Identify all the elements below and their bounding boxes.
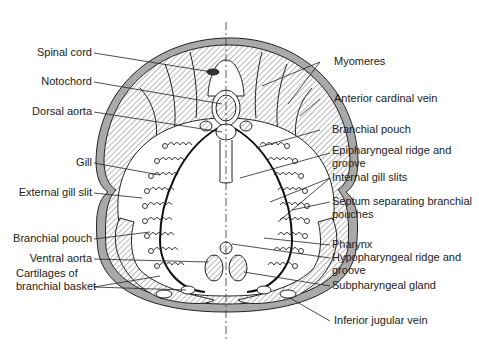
label-inferior-jugular-vein: Inferior jugular vein [334, 314, 428, 327]
label-dorsal-aorta: Dorsal aorta [0, 105, 92, 118]
label-myomeres: Myomeres [334, 55, 385, 68]
label-subpharyngeal-gland: Subpharyngeal gland [332, 279, 436, 292]
label-gill: Gill [0, 156, 92, 169]
label-epipharyngeal-line2: groove [332, 157, 366, 170]
label-external-gill-slit: External gill slit [0, 186, 92, 199]
label-spinal-cord: Spinal cord [0, 46, 92, 59]
label-septum-line2: pouches [332, 208, 374, 221]
label-hypopharyngeal-line2: groove [332, 264, 366, 277]
label-notochord: Notochord [0, 75, 92, 88]
label-cartilages-line1: Cartilages of [16, 267, 78, 280]
label-branchial-pouch-right: Branchial pouch [332, 123, 411, 136]
label-branchial-pouch-left: Branchial pouch [0, 232, 92, 245]
label-pharynx: Pharynx [332, 238, 372, 251]
label-ventral-aorta: Ventral aorta [0, 252, 92, 265]
label-anterior-cardinal-vein: Anterior cardinal vein [334, 92, 437, 105]
label-septum-line1: Septum separating branchial [332, 195, 472, 208]
label-hypopharyngeal-line1: Hypopharyngeal ridge and [332, 251, 461, 264]
label-internal-gill-slits: Internal gill slits [332, 171, 407, 184]
label-cartilages-line2: branchial basket [16, 280, 96, 293]
label-epipharyngeal-line1: Epipharyngeal ridge and [332, 144, 451, 157]
